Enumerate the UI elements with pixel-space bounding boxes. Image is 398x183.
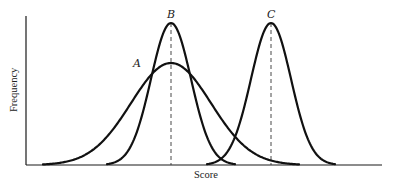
curve-label-c: C xyxy=(267,8,276,21)
y-axis-title: Frequency xyxy=(8,67,19,112)
mean-lines xyxy=(171,23,271,165)
distribution-chart: A B C Score Frequency xyxy=(0,0,398,183)
curves xyxy=(43,23,335,164)
x-axis-title: Score xyxy=(194,169,218,180)
curve-label-b: B xyxy=(166,8,175,21)
curve-label-a: A xyxy=(132,57,141,70)
